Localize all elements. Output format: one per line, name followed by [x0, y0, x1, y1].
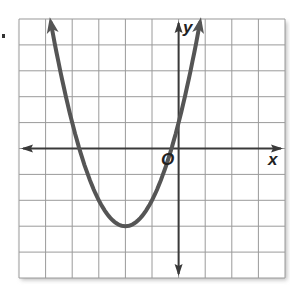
- origin-label: O: [161, 150, 174, 170]
- x-axis-label: x: [268, 150, 277, 170]
- bullet-marker: [2, 34, 5, 38]
- y-axis-label: y: [183, 18, 192, 38]
- graph-figure: y x O: [0, 0, 290, 296]
- coordinate-plane: [0, 0, 290, 296]
